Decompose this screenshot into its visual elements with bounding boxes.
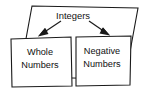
inner-set-label-negative-line1: Negative [84,46,120,56]
inner-set-label-whole-line2: Numbers [21,60,59,70]
inner-set-label-negative-line2: Numbers [83,59,121,69]
diagram-canvas: Integers Whole Numbers Negative Numbers [0,0,145,96]
inner-set-label-whole-line1: Whole [27,47,53,57]
outer-set-label-integers: Integers [56,10,90,21]
integers-set-diagram: Integers Whole Numbers Negative Numbers [0,0,145,96]
